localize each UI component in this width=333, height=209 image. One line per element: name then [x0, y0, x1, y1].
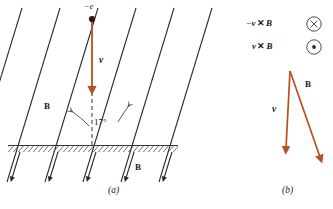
velocity-label-panel-b: v	[272, 105, 276, 115]
expression-v-cross-b: v✕B	[252, 42, 273, 51]
panel-caption-a: (a)	[108, 186, 119, 196]
out-of-page-circle	[307, 40, 321, 54]
cross-operator: ✕	[256, 18, 266, 28]
physics-figure: −e v B B 17° (a) −v✕B v✕B v B (b)	[0, 0, 333, 209]
panel-caption-b: (b)	[282, 186, 293, 196]
field-label-panel-a-upper: B	[44, 102, 50, 111]
velocity-label-panel-a: v	[99, 56, 103, 66]
into-page-circle	[307, 17, 321, 31]
angle-label-17-deg: 17°	[94, 118, 107, 127]
panel-a-field-lines	[0, 8, 212, 182]
panel-b-vectors	[286, 71, 320, 157]
ground-surface	[8, 146, 178, 153]
field-label-panel-b: B	[305, 80, 311, 89]
expression-neg-v-cross-b: −v✕B	[246, 19, 272, 28]
charge-label-electron: −e	[84, 2, 94, 11]
vector-b-symbol: B	[266, 18, 272, 28]
cross-operator-2: ✕	[256, 41, 266, 51]
panel-a-field-arrowheads	[12, 152, 172, 178]
panel-a-velocity-vector	[89, 16, 95, 88]
vector-b-symbol-2: B	[267, 41, 273, 51]
field-label-panel-a-lower: B	[135, 163, 141, 172]
